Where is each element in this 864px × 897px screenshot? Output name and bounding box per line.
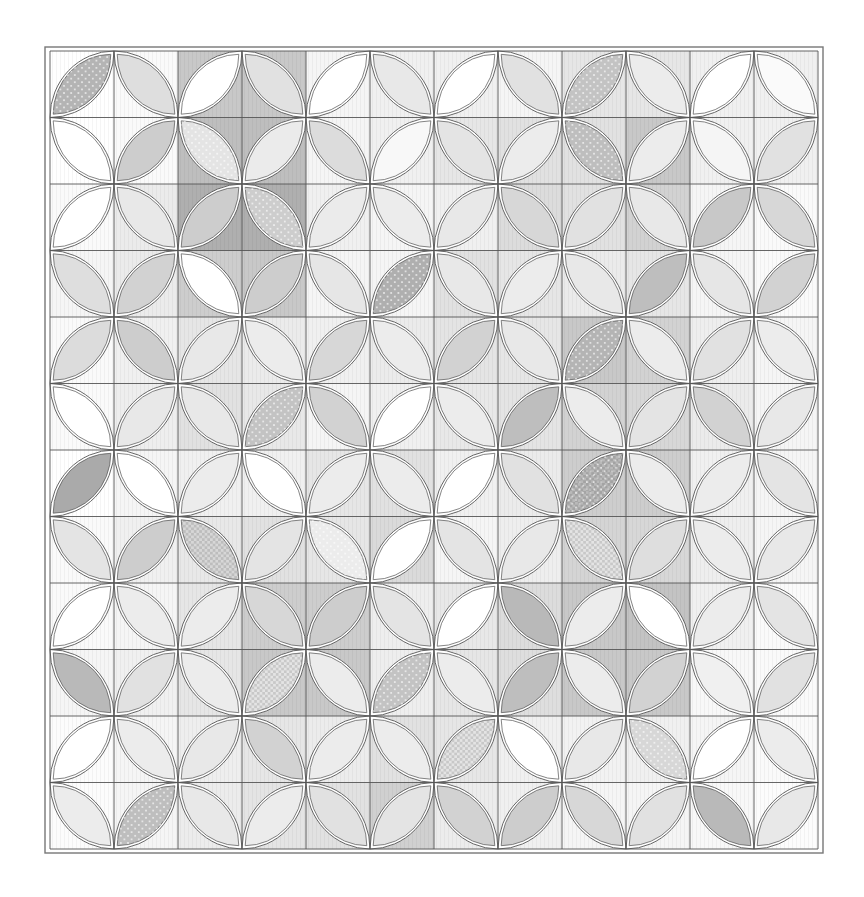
quilt-svg [0,0,864,897]
quilt-figure: Orange peel quilt block layout [0,0,864,897]
